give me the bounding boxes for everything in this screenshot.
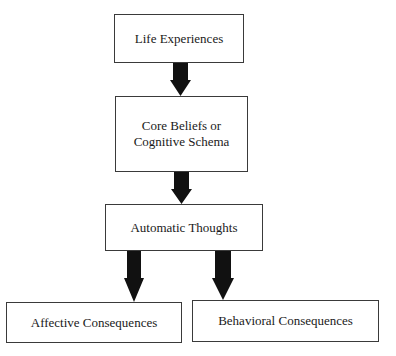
arrow-core-to-automatic-icon <box>171 172 192 204</box>
arrows-layer <box>0 0 396 356</box>
arrow-life-to-core-icon <box>170 63 191 96</box>
arrow-automatic-to-affective-icon <box>124 251 144 302</box>
arrow-automatic-to-behavioral-icon <box>212 251 234 300</box>
